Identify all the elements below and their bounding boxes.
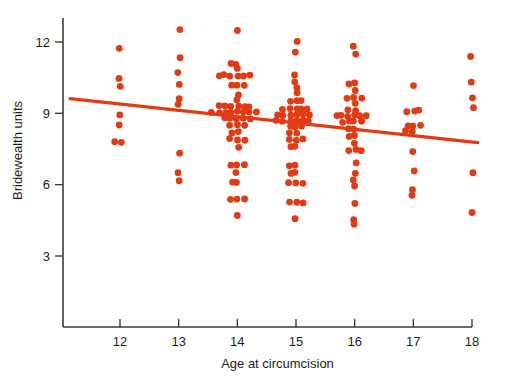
data-point [351, 221, 358, 228]
x-tick-label: 17 [406, 334, 420, 349]
data-point [228, 162, 235, 169]
data-point [285, 179, 292, 186]
data-point [409, 148, 416, 155]
data-point [235, 144, 242, 151]
data-point [300, 180, 307, 187]
data-point [228, 60, 235, 67]
x-tick-label: 12 [113, 334, 127, 349]
data-point [351, 80, 358, 87]
data-point [292, 49, 299, 56]
data-point [415, 107, 422, 114]
x-tick-label: 16 [347, 334, 361, 349]
data-point [293, 137, 300, 144]
data-point [334, 112, 341, 119]
data-point [352, 87, 359, 94]
data-point [246, 72, 253, 79]
data-point [411, 168, 418, 175]
data-point [300, 111, 307, 118]
data-point [345, 147, 352, 154]
data-point [177, 54, 184, 61]
data-point [363, 112, 370, 119]
data-point [286, 136, 293, 143]
plot-background [0, 0, 510, 380]
x-tick-label: 18 [465, 334, 479, 349]
data-point [292, 180, 299, 187]
data-point [279, 106, 286, 113]
data-point [234, 137, 241, 144]
x-tick-label: 15 [289, 334, 303, 349]
data-point [116, 75, 123, 82]
data-point [467, 53, 474, 60]
data-point [229, 179, 236, 186]
data-point [222, 102, 229, 109]
data-point [346, 117, 353, 124]
data-point [293, 130, 300, 137]
x-tick-label: 13 [171, 334, 185, 349]
data-point [417, 122, 424, 129]
data-point [175, 101, 182, 108]
data-point [227, 103, 234, 110]
data-point [233, 196, 240, 203]
data-point [351, 183, 358, 190]
data-point [294, 111, 301, 118]
data-point [300, 199, 307, 206]
data-point [176, 81, 183, 88]
data-point [234, 65, 241, 72]
data-point [176, 150, 183, 157]
data-point [344, 95, 351, 102]
data-point [294, 89, 301, 96]
data-point [286, 199, 293, 206]
data-point [242, 137, 249, 144]
data-point [291, 78, 298, 85]
data-point [117, 83, 124, 90]
data-point [234, 27, 241, 34]
y-tick-label: 12 [36, 35, 50, 50]
data-point [293, 199, 300, 206]
data-point [294, 38, 301, 45]
data-point [246, 109, 253, 116]
data-point [346, 81, 353, 88]
data-point [226, 73, 233, 80]
data-point [235, 128, 242, 135]
data-point [350, 177, 357, 184]
data-point [469, 169, 476, 176]
data-point [351, 200, 358, 207]
data-point [351, 140, 358, 147]
data-point [176, 177, 183, 184]
data-point [288, 170, 295, 177]
data-point [306, 112, 313, 119]
y-tick-label: 3 [43, 249, 50, 264]
data-point [344, 106, 351, 113]
data-point [298, 97, 305, 104]
data-point [233, 97, 240, 104]
data-point [291, 72, 298, 79]
data-point [339, 119, 346, 126]
data-point [352, 100, 359, 107]
data-point [175, 169, 182, 176]
data-point [216, 72, 223, 79]
data-point [286, 129, 293, 136]
data-point [241, 82, 248, 89]
data-point [469, 94, 476, 101]
data-point [234, 108, 241, 115]
data-point [234, 212, 241, 219]
data-point [468, 79, 475, 86]
data-point [253, 108, 260, 115]
data-point [287, 98, 294, 105]
data-point [116, 45, 123, 52]
data-point [176, 95, 183, 102]
data-point [116, 112, 123, 119]
data-point [116, 122, 123, 129]
data-point [352, 51, 359, 58]
data-point [350, 94, 357, 101]
data-point [174, 69, 181, 76]
y-axis-title: Bridewealth units [10, 101, 25, 200]
data-point [410, 82, 417, 89]
data-point [118, 139, 125, 146]
data-point [469, 209, 476, 216]
data-point [287, 105, 294, 112]
data-point [358, 118, 365, 125]
data-point [352, 170, 359, 177]
y-tick-label: 9 [43, 106, 50, 121]
plot-canvas: 3691212131415161718Age at circumcisionBr… [0, 0, 510, 380]
